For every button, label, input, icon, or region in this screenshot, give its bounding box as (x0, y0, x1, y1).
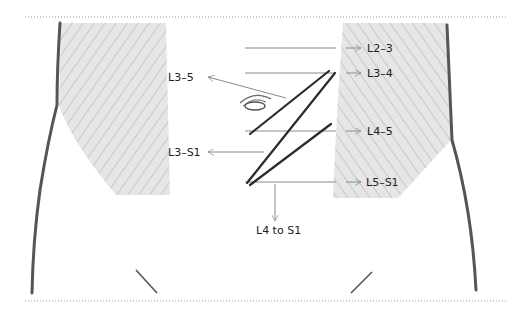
left-groin-line (136, 270, 157, 293)
arrow-icon (208, 77, 286, 98)
incision-line (247, 73, 335, 183)
label-l3-4: L3–4 (367, 67, 393, 80)
right-groin-line (351, 272, 372, 293)
umbilicus-icon (240, 95, 271, 110)
left-rectus-region (59, 23, 170, 195)
incision-line (250, 124, 331, 185)
label-l3-s1: L3–S1 (168, 146, 201, 159)
label-l2-3: L2–3 (367, 42, 393, 55)
left-body-outline (32, 23, 60, 293)
label-l4-5: L4–5 (367, 125, 393, 138)
abdominal-incision-diagram: L2–3 L3–4 L4–5 L5–S1 L3–5 L3–S1 L4 to S1 (0, 0, 506, 317)
label-l3-5: L3–5 (168, 71, 194, 84)
label-l5-s1: L5–S1 (366, 176, 399, 189)
label-l4-to-s1: L4 to S1 (256, 224, 301, 237)
right-body-outline (447, 25, 476, 290)
